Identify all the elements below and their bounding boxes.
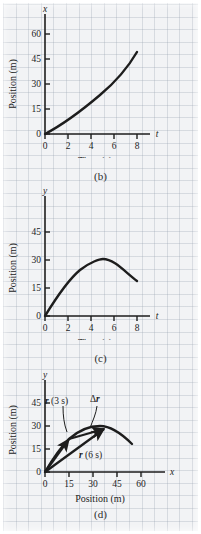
- panel-d-svg: 0 15 30 45 0 15 30 45 60 y x Position (m…: [0, 368, 201, 518]
- panel-b-xtick-8: 8: [135, 141, 140, 151]
- panel-d-xtick-0: 0: [43, 479, 48, 489]
- panel-b-y-axis: [45, 14, 150, 134]
- panel-c-xtick-0: 0: [43, 323, 48, 333]
- panel-c-xtick-8: 8: [135, 323, 140, 333]
- panel-c: 0 15 30 45 0 2 4 6 8 y t Position (m) Ti…: [0, 188, 201, 340]
- panel-d-ytick-0: 0: [36, 467, 41, 477]
- panel-b-svg: 0 15 30 45 60 0 2 4 6 8 x t Position (m)…: [0, 6, 201, 158]
- panel-b-xlabel: Time (s): [78, 155, 112, 158]
- panel-b-ytick-60: 60: [32, 29, 42, 39]
- label-r-6s: r (6 s): [79, 450, 102, 461]
- panel-b-ylabel: Position (m): [7, 59, 19, 109]
- panel-b-axis-y-symbol: x: [42, 6, 48, 14]
- panel-d-ylabel: Position (m): [7, 405, 19, 455]
- panel-b-xtick-4: 4: [89, 141, 94, 151]
- vector-r-3s: [45, 439, 69, 472]
- panel-d-xtick-45: 45: [112, 479, 122, 489]
- panel-d-xtick-30: 30: [88, 479, 98, 489]
- figure-graph-paper: 0 15 30 45 60 0 2 4 6 8 x t Position (m)…: [0, 0, 201, 534]
- panel-c-xtick-2: 2: [66, 323, 71, 333]
- panel-c-xtick-6: 6: [112, 323, 117, 333]
- panel-c-axis-x-symbol: t: [156, 311, 159, 321]
- panel-c-ytick-45: 45: [32, 227, 42, 237]
- leader-delta-r: [90, 406, 97, 428]
- panel-d-ytick-30: 30: [32, 421, 42, 431]
- panel-c-svg: 0 15 30 45 0 2 4 6 8 y t Position (m) Ti…: [0, 188, 201, 340]
- panel-b-xtick-6: 6: [112, 141, 117, 151]
- panel-c-curve: [45, 259, 137, 316]
- panel-c-xlabel: Time (s): [78, 337, 112, 340]
- panel-b: 0 15 30 45 60 0 2 4 6 8 x t Position (m)…: [0, 6, 201, 158]
- panel-b-axis-x-symbol: t: [156, 129, 159, 139]
- panel-d-xlabel: Position (m): [75, 493, 125, 505]
- panel-d-ytick-15: 15: [32, 444, 42, 454]
- panel-c-ytick-0: 0: [36, 311, 41, 321]
- panel-d-xtick-15: 15: [64, 479, 74, 489]
- panel-c-ytick-15: 15: [32, 283, 42, 293]
- panel-b-caption: (b): [0, 170, 201, 182]
- panel-b-ytick-30: 30: [32, 79, 42, 89]
- panel-c-ylabel: Position (m): [7, 243, 19, 293]
- label-r-3s: r (3 s): [45, 396, 68, 407]
- panel-b-ytick-0: 0: [36, 129, 41, 139]
- panel-b-curve: [45, 52, 137, 134]
- panel-d-xtick-60: 60: [136, 479, 146, 489]
- panel-d: 0 15 30 45 0 15 30 45 60 y x Position (m…: [0, 368, 201, 518]
- panel-d-caption: (d): [0, 508, 201, 520]
- panel-c-caption: (c): [0, 352, 201, 364]
- label-delta-r: Δr: [90, 394, 100, 404]
- panel-c-axes: [45, 196, 150, 316]
- panel-c-xtick-4: 4: [89, 323, 94, 333]
- panel-d-ytick-45: 45: [32, 398, 42, 408]
- panel-b-ytick-45: 45: [32, 54, 42, 64]
- panel-d-axis-x-symbol: x: [169, 467, 175, 477]
- panel-b-ytick-15: 15: [32, 104, 42, 114]
- panel-b-xtick-2: 2: [66, 141, 71, 151]
- panel-b-xtick-0: 0: [43, 141, 48, 151]
- panel-d-axis-y-symbol: y: [42, 370, 48, 380]
- leader-r-3s: [63, 406, 67, 432]
- panel-c-axis-y-symbol: y: [42, 188, 48, 196]
- panel-c-ytick-30: 30: [32, 255, 42, 265]
